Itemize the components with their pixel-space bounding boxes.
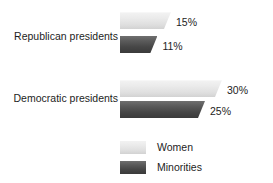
value-label-democratic-women: 30%	[227, 84, 248, 96]
bar-democratic-minorities	[120, 101, 205, 118]
bar-fill	[120, 80, 222, 97]
bar-fill	[120, 12, 171, 29]
bar-democratic-women	[120, 80, 222, 97]
value-label-republican-minorities: 11%	[162, 40, 182, 52]
value-label-democratic-minorities: 25%	[210, 105, 231, 117]
legend-swatch-minorities	[120, 161, 146, 174]
bar-republican-women	[120, 12, 171, 29]
legend-label-women: Women	[157, 140, 193, 155]
legend-label-minorities: Minorities	[157, 160, 202, 175]
bar-chart: Republican presidents Democratic preside…	[0, 0, 273, 183]
legend-swatch-women	[120, 141, 146, 154]
bar-republican-minorities	[120, 36, 157, 53]
bar-fill	[120, 101, 205, 118]
category-label-democratic: Democratic presidents	[14, 92, 118, 104]
value-label-republican-women: 15%	[176, 16, 197, 28]
category-label-republican: Republican presidents	[14, 30, 118, 42]
